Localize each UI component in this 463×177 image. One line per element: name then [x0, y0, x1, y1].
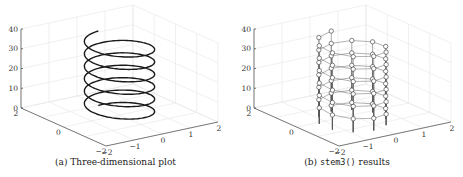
svg-text:40: 40	[8, 25, 18, 34]
stem-marker	[317, 35, 321, 39]
svg-text:0: 0	[289, 128, 294, 137]
grid-lines	[21, 5, 218, 146]
svg-text:0: 0	[394, 136, 399, 145]
stem-marker	[372, 54, 376, 58]
svg-text:−1: −1	[129, 142, 140, 151]
stem-marker	[351, 55, 355, 59]
stem-marker	[384, 112, 388, 116]
stem-marker	[329, 41, 333, 45]
stem-marker	[317, 97, 321, 101]
svg-text:10: 10	[241, 84, 251, 93]
svg-text:−1: −1	[362, 142, 373, 151]
stem-marker	[370, 40, 374, 44]
svg-text:40: 40	[241, 25, 251, 34]
svg-text:−2: −2	[328, 147, 339, 156]
stem-marker	[317, 56, 321, 60]
stem-marker	[384, 87, 388, 91]
svg-text:20: 20	[241, 64, 251, 73]
svg-text:1: 1	[189, 130, 194, 139]
stem-marker	[330, 51, 334, 55]
caption-b: (b) stem3() results	[231, 157, 463, 167]
caption-a: (a) Three-dimensional plot	[0, 157, 231, 167]
caption-a-text: Three-dimensional plot	[70, 157, 176, 167]
stem-marker	[384, 100, 388, 104]
stem3-plot: −2−1012−202010203040	[231, 0, 463, 157]
stem-marker	[317, 73, 321, 77]
caption-a-label: (a)	[55, 157, 67, 167]
stem-marker	[317, 93, 321, 97]
stem-marker	[350, 38, 354, 42]
stem-marker	[317, 81, 321, 85]
axis-lines	[254, 29, 451, 146]
stem-marker	[330, 113, 334, 117]
stem-marker	[372, 66, 376, 70]
stem-marker	[330, 100, 334, 104]
stem-marker	[384, 50, 388, 54]
svg-text:1: 1	[422, 130, 427, 139]
stem-marker	[329, 29, 333, 33]
svg-text:30: 30	[241, 44, 251, 53]
stem-marker	[383, 94, 387, 98]
stem-marker	[383, 106, 387, 110]
stem-marker	[372, 116, 376, 120]
svg-text:20: 20	[8, 64, 18, 73]
stem-marker	[317, 85, 321, 89]
stem-marker	[317, 68, 321, 72]
stem-marker	[317, 44, 321, 48]
axes-3d: −2−1012−202010203040	[8, 5, 221, 157]
svg-text:0: 0	[56, 128, 61, 137]
stem-marker	[372, 91, 376, 95]
stem-marker	[351, 104, 355, 108]
stem-marker	[351, 67, 355, 71]
caption-b-text: results	[359, 157, 390, 167]
panel-stem3-results: −2−1012−202010203040 (b) stem3() results	[231, 0, 463, 177]
stem-marker	[372, 104, 376, 108]
stem-marker	[384, 69, 388, 73]
stem-marker	[384, 44, 388, 48]
stem-series	[317, 29, 389, 132]
helix-plot: −2−1012−202010203040	[0, 0, 231, 157]
axis-lines	[21, 29, 218, 146]
caption-b-label: (b)	[304, 157, 317, 167]
stem-marker	[317, 48, 321, 52]
stem-marker	[351, 79, 355, 83]
svg-text:0: 0	[246, 104, 251, 113]
svg-text:0: 0	[161, 136, 166, 145]
stem-marker	[317, 60, 321, 64]
panel-three-dimensional-plot: −2−1012−202010203040 (a) Three-dimension…	[0, 0, 231, 177]
stem-marker	[330, 76, 334, 80]
stem-marker	[330, 63, 334, 67]
stem-marker	[384, 57, 388, 61]
stem-marker	[317, 106, 321, 110]
stem-marker	[384, 81, 388, 85]
stem-marker	[372, 79, 376, 83]
helix-curve	[84, 31, 154, 119]
svg-text:0: 0	[13, 104, 18, 113]
svg-text:2: 2	[450, 124, 455, 133]
stem-marker	[330, 88, 334, 92]
caption-b-code: stem3()	[320, 157, 356, 167]
axes-3d: −2−1012−202010203040	[241, 5, 454, 157]
stem-marker	[384, 62, 388, 66]
stem-marker	[384, 75, 388, 79]
stem-marker	[351, 92, 355, 96]
svg-text:30: 30	[8, 44, 18, 53]
stem-marker	[351, 117, 355, 121]
svg-text:−2: −2	[95, 147, 106, 156]
svg-text:10: 10	[8, 84, 18, 93]
svg-text:2: 2	[217, 124, 222, 133]
